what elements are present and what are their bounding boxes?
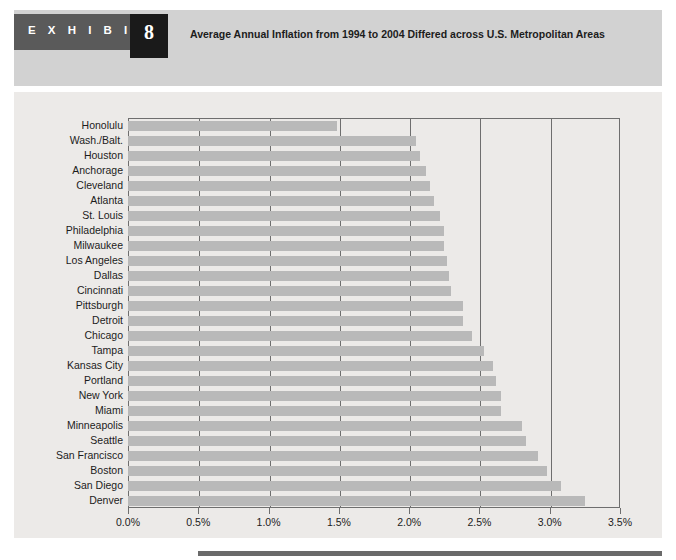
y-axis-label: Dallas [30,269,123,281]
y-axis-label: Tampa [30,344,123,356]
bar [128,136,416,146]
x-axis-label: 2.0% [379,516,439,528]
exhibit-page: E X H I B I T 8 Average Annual Inflation… [0,0,676,560]
x-axis-label: 3.0% [520,516,580,528]
bar [128,316,463,326]
bar [128,451,538,461]
bar [128,211,440,221]
bar [128,391,501,401]
bar [128,481,561,491]
y-axis-label: Kansas City [30,359,123,371]
bar [128,466,547,476]
y-axis-label: Honolulu [30,119,123,131]
bar [128,496,585,506]
y-axis-label: Cleveland [30,179,123,191]
y-axis-label: St. Louis [30,209,123,221]
y-axis-label: Los Angeles [30,254,123,266]
y-axis-labels: HonoluluWash./Balt.HoustonAnchorageCleve… [30,118,123,508]
x-axis-label: 3.5% [590,516,650,528]
bar [128,421,522,431]
bar [128,406,501,416]
bar [128,436,526,446]
y-axis-label: Cincinnati [30,284,123,296]
bar [128,286,451,296]
y-axis-label: Chicago [30,329,123,341]
bar [128,346,484,356]
x-axis-tick [550,508,551,514]
y-axis-label: Philadelphia [30,224,123,236]
x-axis-tick [339,508,340,514]
y-axis-label: Atlanta [30,194,123,206]
bar [128,226,444,236]
x-axis-label: 1.5% [309,516,369,528]
bar [128,301,463,311]
x-axis-label: 1.0% [239,516,299,528]
y-axis-label: Houston [30,149,123,161]
bar [128,181,430,191]
bar [128,121,337,131]
bar-series [128,118,620,508]
bottom-rule [198,551,662,556]
x-axis-tick [479,508,480,514]
y-axis-label: Portland [30,374,123,386]
bar [128,361,493,371]
x-axis-label: 2.5% [449,516,509,528]
y-axis-label: Denver [30,494,123,506]
exhibit-number: 8 [130,21,168,44]
x-axis-tick [198,508,199,514]
y-axis-label: Milwaukee [30,239,123,251]
bar [128,256,447,266]
y-axis-label: Detroit [30,314,123,326]
y-axis-label: Boston [30,464,123,476]
y-axis-label: Seattle [30,434,123,446]
y-axis-label: Wash./Balt. [30,134,123,146]
bar [128,196,434,206]
bar [128,376,496,386]
exhibit-title: Average Annual Inflation from 1994 to 20… [190,27,620,42]
bar [128,241,444,251]
x-axis-label: 0.0% [98,516,158,528]
x-axis-tick [128,508,129,514]
y-axis-label: Anchorage [30,164,123,176]
bar [128,166,426,176]
x-axis-tick [620,508,621,514]
x-axis-tick [269,508,270,514]
y-axis-label: San Francisco [30,449,123,461]
y-axis-label: Miami [30,404,123,416]
bar [128,331,472,341]
y-axis-label: Pittsburgh [30,299,123,311]
x-axis-label: 0.5% [168,516,228,528]
y-axis-label: San Diego [30,479,123,491]
bar [128,151,420,161]
y-axis-label: Minneapolis [30,419,123,431]
y-axis-label: New York [30,389,123,401]
bar [128,271,449,281]
x-axis-tick [409,508,410,514]
